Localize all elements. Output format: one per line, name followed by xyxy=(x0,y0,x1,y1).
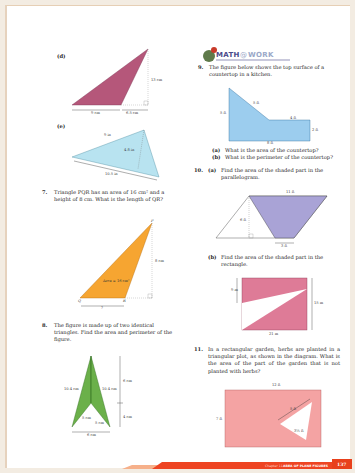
page-number: 137 xyxy=(337,462,346,467)
footer-stripe xyxy=(7,6,352,469)
footer-chapter: Chapter 11 xyxy=(265,464,283,468)
footer-title: AREA OF PLANE FIGURES xyxy=(283,464,328,468)
textbook-page: (d) 9 cm 6.5 cm 13 cm (e) 9 in 4.8 in 10… xyxy=(5,5,350,468)
